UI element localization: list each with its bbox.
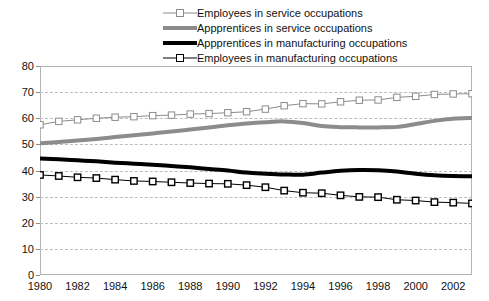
series-line xyxy=(40,118,472,143)
data-point-marker xyxy=(40,172,43,178)
line-chart: Employees in service occupations Apppren… xyxy=(0,0,489,301)
x-axis-tick-label: 1982 xyxy=(58,281,98,292)
x-axis-tick-label: 2000 xyxy=(396,281,436,292)
data-point-marker xyxy=(412,93,418,99)
legend-key-line-marker-icon xyxy=(163,7,197,19)
series-1 xyxy=(40,118,472,143)
series-3 xyxy=(40,172,472,207)
legend-item-apprentices-manufacturing[interactable]: Appprentices in manufacturing occupation… xyxy=(163,36,407,50)
legend-label: Appprentices in service occupations xyxy=(197,22,372,34)
data-point-marker xyxy=(281,103,287,109)
legend-label: Employees in service occupations xyxy=(197,7,363,19)
data-point-marker xyxy=(375,97,381,103)
x-axis-tick-label: 2002 xyxy=(433,281,473,292)
data-point-marker xyxy=(243,182,249,188)
x-axis-tick-label: 1988 xyxy=(170,281,210,292)
legend-key-thick-gray-line-icon xyxy=(163,22,197,34)
data-point-marker xyxy=(394,94,400,100)
y-axis-tick-label: 50 xyxy=(8,139,34,150)
data-point-marker xyxy=(319,101,325,107)
data-point-marker xyxy=(356,97,362,103)
y-axis-tick-label: 30 xyxy=(8,192,34,203)
data-point-marker xyxy=(187,111,193,117)
legend-item-apprentices-service[interactable]: Appprentices in service occupations xyxy=(163,21,407,35)
series-line xyxy=(40,158,472,176)
data-point-marker xyxy=(412,197,418,203)
data-point-marker xyxy=(431,91,437,97)
data-point-marker xyxy=(262,184,268,190)
data-point-marker xyxy=(225,110,231,116)
data-point-marker xyxy=(450,91,456,97)
data-point-marker xyxy=(56,118,62,124)
data-point-marker xyxy=(243,109,249,115)
x-axis-tick-label: 1986 xyxy=(133,281,173,292)
legend-key-line-marker-icon xyxy=(163,52,197,64)
series-canvas xyxy=(40,66,472,275)
legend-key-thick-black-line-icon xyxy=(163,37,197,49)
data-point-marker xyxy=(225,181,231,187)
y-axis-tick-mark xyxy=(36,275,40,276)
y-axis-tick-label: 60 xyxy=(8,113,34,124)
data-point-marker xyxy=(112,114,118,120)
data-point-marker xyxy=(168,112,174,118)
legend-label: Employees in manufacturing occupations xyxy=(197,52,398,64)
data-point-marker xyxy=(149,112,155,118)
y-axis-tick-label: 40 xyxy=(8,166,34,177)
plot-area xyxy=(40,66,472,275)
data-point-marker xyxy=(431,199,437,205)
data-point-marker xyxy=(131,113,137,119)
data-point-marker xyxy=(300,100,306,106)
y-axis-tick-label: 80 xyxy=(8,61,34,72)
legend-label: Appprentices in manufacturing occupation… xyxy=(197,37,407,49)
data-point-marker xyxy=(131,178,137,184)
data-point-marker xyxy=(469,200,472,206)
y-axis-tick-label: 70 xyxy=(8,87,34,98)
y-axis-tick-label: 10 xyxy=(8,244,34,255)
data-point-marker xyxy=(93,115,99,121)
data-point-marker xyxy=(74,174,80,180)
data-point-marker xyxy=(319,190,325,196)
data-point-marker xyxy=(356,194,362,200)
data-point-marker xyxy=(300,190,306,196)
x-axis-tick-label: 1984 xyxy=(95,281,135,292)
x-axis-tick-label: 1994 xyxy=(283,281,323,292)
x-axis-tick-label: 1996 xyxy=(321,281,361,292)
series-line xyxy=(40,175,472,203)
data-point-marker xyxy=(40,122,43,128)
data-point-marker xyxy=(337,99,343,105)
data-point-marker xyxy=(469,90,472,96)
legend-item-employees-manufacturing[interactable]: Employees in manufacturing occupations xyxy=(163,51,407,65)
x-axis-tick-label: 1990 xyxy=(208,281,248,292)
x-axis-tick-label: 1992 xyxy=(245,281,285,292)
data-point-marker xyxy=(168,179,174,185)
data-point-marker xyxy=(262,106,268,112)
series-line xyxy=(40,94,472,125)
x-axis-tick-label: 1998 xyxy=(358,281,398,292)
data-point-marker xyxy=(337,192,343,198)
series-2 xyxy=(40,158,472,176)
data-point-marker xyxy=(394,197,400,203)
data-point-marker xyxy=(149,178,155,184)
data-point-marker xyxy=(93,175,99,181)
data-point-marker xyxy=(206,110,212,116)
data-point-marker xyxy=(74,117,80,123)
data-point-marker xyxy=(281,187,287,193)
data-point-marker xyxy=(187,180,193,186)
data-point-marker xyxy=(375,194,381,200)
data-point-marker xyxy=(56,173,62,179)
data-point-marker xyxy=(112,176,118,182)
y-axis-tick-label: 20 xyxy=(8,218,34,229)
legend-item-employees-service[interactable]: Employees in service occupations xyxy=(163,6,407,20)
data-point-marker xyxy=(450,199,456,205)
chart-legend: Employees in service occupations Apppren… xyxy=(163,6,407,65)
data-point-marker xyxy=(206,180,212,186)
x-axis-tick-label: 1980 xyxy=(20,281,60,292)
